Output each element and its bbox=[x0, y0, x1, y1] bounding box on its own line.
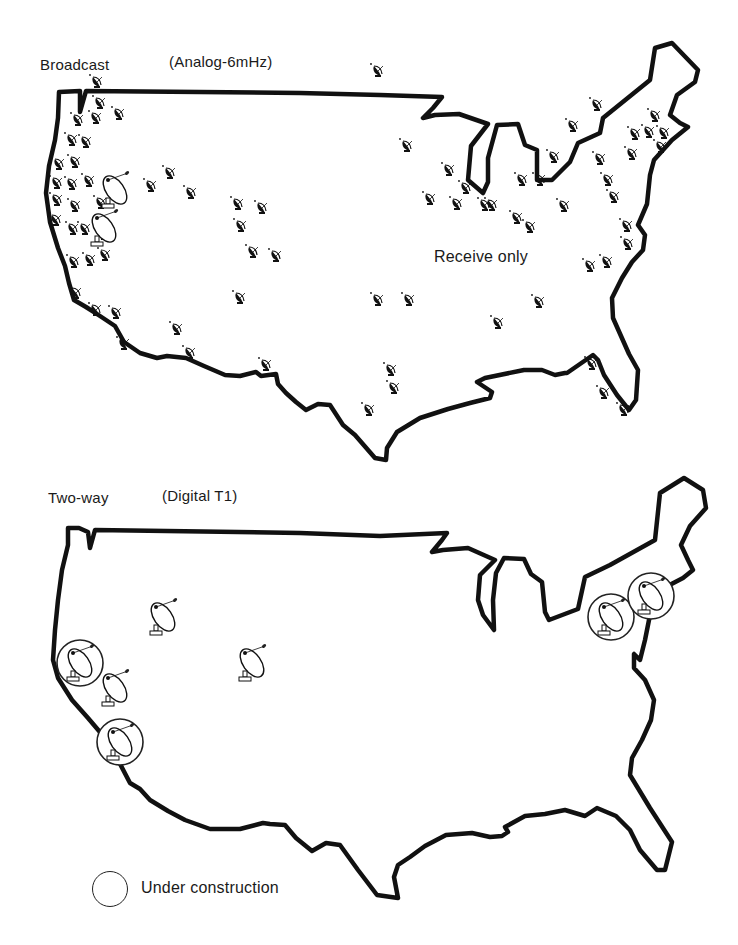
small-satellite-dish-icon bbox=[64, 132, 77, 146]
small-satellite-dish-icon bbox=[600, 172, 613, 186]
small-satellite-dish-icon bbox=[70, 112, 83, 126]
small-satellite-dish-icon bbox=[233, 218, 246, 232]
small-satellite-dish-icon bbox=[401, 292, 414, 306]
small-satellite-dish-icon bbox=[531, 294, 544, 308]
small-satellite-dish-icon bbox=[522, 219, 535, 233]
small-satellite-dish-icon bbox=[565, 118, 578, 132]
small-satellite-dish-icon bbox=[49, 175, 62, 189]
small-satellite-dish-icon bbox=[92, 95, 105, 109]
small-satellite-dish-icon bbox=[641, 124, 654, 138]
small-satellite-dish-icon bbox=[627, 126, 640, 140]
small-satellite-dish-icon bbox=[111, 106, 124, 120]
small-satellite-dish-icon bbox=[599, 254, 612, 268]
small-satellite-dish-icon bbox=[422, 191, 435, 205]
small-satellite-dish-icon bbox=[143, 178, 156, 192]
small-satellite-dish-icon bbox=[477, 197, 490, 211]
small-satellite-dish-icon bbox=[49, 192, 62, 206]
small-satellite-dish-icon bbox=[67, 198, 80, 212]
small-satellite-dish-icon bbox=[441, 162, 454, 176]
small-satellite-dish-icon bbox=[78, 134, 91, 148]
small-satellite-dish-icon bbox=[624, 146, 637, 160]
small-satellite-dish-icon bbox=[81, 173, 94, 187]
large-satellite-dish-icon bbox=[98, 170, 131, 208]
small-satellite-dish-icon bbox=[514, 172, 527, 186]
small-satellite-dish-icon bbox=[656, 125, 669, 139]
small-satellite-dish-icon bbox=[258, 357, 271, 371]
large-satellite-dish-icon bbox=[87, 208, 120, 246]
satellite-dish-icon bbox=[98, 668, 131, 706]
small-satellite-dish-icon bbox=[361, 402, 374, 416]
small-satellite-dish-icon bbox=[582, 258, 595, 272]
small-satellite-dish-icon bbox=[509, 210, 522, 224]
small-satellite-dish-icon bbox=[620, 236, 633, 250]
small-satellite-dish-icon bbox=[245, 244, 258, 258]
small-satellite-dish-icon bbox=[88, 110, 101, 124]
small-satellite-dish-icon bbox=[556, 198, 569, 212]
small-satellite-dish-icon bbox=[546, 149, 559, 163]
small-satellite-dish-icon bbox=[97, 247, 110, 261]
small-satellite-dish-icon bbox=[592, 151, 605, 165]
small-satellite-dish-icon bbox=[230, 196, 243, 210]
top-map-large-dishes bbox=[87, 170, 131, 246]
satellite-dish-icon bbox=[146, 597, 179, 635]
small-satellite-dish-icon bbox=[65, 221, 78, 235]
small-satellite-dish-icon bbox=[162, 165, 175, 179]
small-satellite-dish-icon bbox=[370, 292, 383, 306]
small-satellite-dish-icon bbox=[183, 185, 196, 199]
small-satellite-dish-icon bbox=[82, 252, 95, 266]
small-satellite-dish-icon bbox=[606, 189, 619, 203]
small-satellite-dish-icon bbox=[64, 176, 77, 190]
small-satellite-dish-icon bbox=[77, 221, 90, 235]
small-satellite-dish-icon bbox=[108, 305, 121, 319]
small-satellite-dish-icon bbox=[89, 74, 102, 88]
small-satellite-dish-icon bbox=[169, 321, 182, 335]
small-satellite-dish-icon bbox=[254, 200, 267, 214]
small-satellite-dish-icon bbox=[67, 154, 80, 168]
small-satellite-dish-icon bbox=[370, 63, 383, 77]
small-satellite-dish-icon bbox=[647, 108, 660, 122]
small-satellite-dish-icon bbox=[589, 97, 602, 111]
small-satellite-dish-icon bbox=[490, 315, 503, 329]
small-satellite-dish-icon bbox=[619, 218, 632, 232]
small-satellite-dish-icon bbox=[268, 248, 281, 262]
small-satellite-dish-icon bbox=[596, 385, 609, 399]
small-satellite-dish-icon bbox=[232, 290, 245, 304]
top-map-receive-dishes bbox=[48, 63, 669, 416]
small-satellite-dish-icon bbox=[386, 380, 399, 394]
satellite-dish-icon bbox=[235, 643, 268, 681]
small-satellite-dish-icon bbox=[399, 138, 412, 152]
small-satellite-dish-icon bbox=[449, 196, 462, 210]
small-satellite-dish-icon bbox=[66, 254, 79, 268]
bottom-us-outline bbox=[53, 478, 706, 898]
small-satellite-dish-icon bbox=[383, 362, 396, 376]
